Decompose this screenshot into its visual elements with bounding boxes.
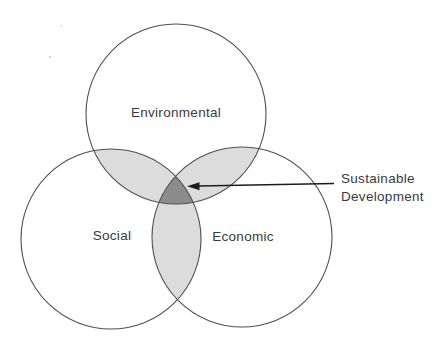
venn-diagram: Environmental Social Economic Sustainabl… — [0, 0, 434, 343]
sustainable-development-label: Sustainable Development — [341, 170, 429, 206]
economic-label: Economic — [212, 229, 274, 244]
scan-speck — [49, 56, 51, 58]
environmental-label: Environmental — [131, 105, 221, 120]
scan-speck — [60, 25, 62, 27]
social-label: Social — [93, 228, 132, 243]
